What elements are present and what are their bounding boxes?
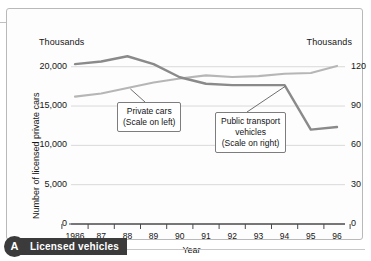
left-tick-0: 0 [62,218,67,228]
chart-plot-svg [19,23,364,238]
x-tick-93: 93 [244,231,272,241]
x-tick-91: 91 [192,231,220,241]
x-tick-90: 90 [166,231,194,241]
right-tick-30: 30 [351,179,361,189]
x-tick-95: 95 [297,231,325,241]
plot-area: Thousands Thousands Number of licensed p… [19,23,364,238]
callout-private-cars: Private cars (Scale on left) [117,102,181,132]
caption-label: Licensed vehicles [16,238,127,255]
x-tick-92: 92 [218,231,246,241]
left-tick-20000: 20,000 [39,61,67,71]
right-tick-60: 60 [351,139,361,149]
callout-private-line-1: Private cars [123,106,175,117]
figure-caption: A Licensed vehicles [4,235,127,257]
x-axis [62,224,350,229]
series-line-private-cars [75,66,337,97]
x-tick-94: 94 [271,231,299,241]
right-tick-90: 90 [351,100,361,110]
left-tick-5000: 5,000 [44,179,67,189]
series-line-public-transport [75,56,337,129]
chart-screenshot: Thousands Thousands Number of licensed p… [0,0,371,261]
caption-badge: A [4,236,25,257]
callout-public-line-3: (Scale on right) [221,138,280,149]
callout-public-line-1: Public transport [221,116,280,127]
left-tick-15000: 15,000 [39,100,67,110]
right-tick-0: 0 [351,218,356,228]
callout-private-line-2: (Scale on left) [123,117,175,128]
x-tick-89: 89 [140,231,168,241]
callout-public-transport: Public transport vehicles (Scale on righ… [215,112,286,153]
left-tick-10000: 10,000 [39,139,67,149]
caption-rule [118,249,365,250]
callout-public-line-2: vehicles [221,127,280,138]
chart-frame: Thousands Thousands Number of licensed p… [6,8,363,240]
x-tick-96: 96 [323,231,351,241]
right-tick-120: 120 [351,61,366,71]
